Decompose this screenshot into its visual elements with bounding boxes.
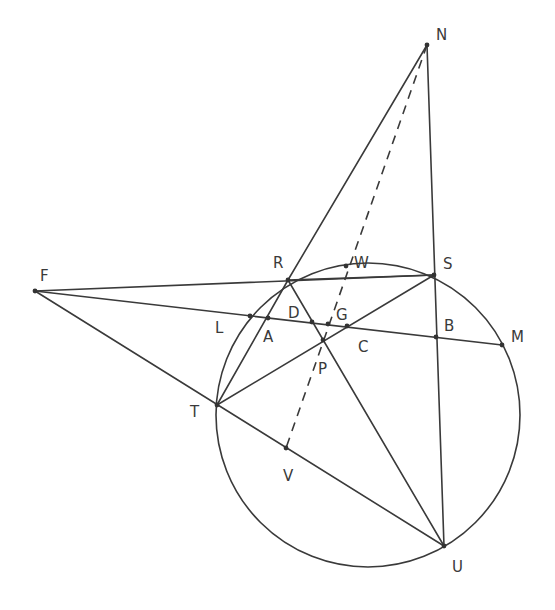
segments <box>35 45 502 546</box>
label-f: F <box>40 267 49 285</box>
label-g: G <box>336 306 348 324</box>
label-b: B <box>444 317 454 335</box>
segment-rt <box>217 280 288 405</box>
label-l: L <box>215 319 224 337</box>
point-r <box>286 278 291 283</box>
point-labels: NRSFLADGCPBMTVUW <box>40 26 524 576</box>
label-s: S <box>443 255 453 273</box>
point-u <box>442 544 447 549</box>
point-v <box>284 446 289 451</box>
segment-rs <box>288 275 434 280</box>
point-b <box>434 335 439 340</box>
point-p <box>321 338 326 343</box>
point-f <box>33 289 38 294</box>
point-m <box>500 343 505 348</box>
point-d <box>310 320 315 325</box>
label-m: M <box>511 328 524 346</box>
label-c: C <box>358 338 368 356</box>
segment-nu <box>427 45 444 546</box>
label-r: R <box>273 254 283 272</box>
segment-ts <box>217 275 434 405</box>
label-d: D <box>288 304 300 322</box>
point-l <box>248 314 253 319</box>
points <box>33 43 505 549</box>
segment-fu <box>35 291 444 546</box>
label-w: W <box>354 254 369 272</box>
point-w <box>344 264 349 269</box>
point-n <box>425 43 430 48</box>
label-u: U <box>452 558 463 576</box>
label-a: A <box>263 328 274 346</box>
label-t: T <box>189 403 200 421</box>
point-g <box>326 322 331 327</box>
point-a <box>266 316 271 321</box>
point-c <box>345 324 350 329</box>
label-n: N <box>436 26 447 44</box>
geometry-diagram: NRSFLADGCPBMTVUW <box>0 0 555 610</box>
point-s <box>432 273 437 278</box>
label-v: V <box>283 467 294 485</box>
point-t <box>215 403 220 408</box>
label-p: P <box>318 360 327 378</box>
